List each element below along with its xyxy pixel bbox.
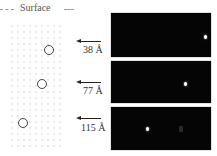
defect-circle-38 [44, 45, 54, 55]
defect-circle-77 [37, 79, 47, 89]
bright-spot [184, 82, 187, 86]
faint-feature [179, 126, 183, 132]
depth-label-115: 115 Å [81, 122, 105, 133]
surface-line-left [0, 9, 14, 10]
stm-image-38 [111, 13, 211, 57]
arrow-left-icon [79, 82, 101, 83]
depth-label-38: 38 Å [83, 44, 103, 55]
surface-line-right [64, 9, 74, 10]
defect-circle-115 [18, 118, 28, 128]
depth-label-77: 77 Å [83, 85, 103, 96]
arrow-left-icon [79, 41, 101, 42]
bright-spot [146, 127, 149, 131]
stm-image-115 [111, 107, 211, 150]
bright-spot [204, 35, 207, 39]
arrow-left-icon [79, 118, 101, 119]
stm-image-77 [111, 61, 211, 103]
lattice-grid [9, 23, 63, 148]
surface-label: Surface [20, 2, 51, 13]
